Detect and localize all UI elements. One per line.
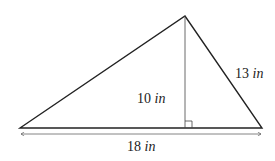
triangle-shape <box>20 16 262 128</box>
side-label: 13 in <box>235 66 263 81</box>
triangle-diagram: 10 in 13 in 18 in <box>0 0 275 161</box>
base-label: 18 in <box>127 139 155 154</box>
right-angle-marker <box>185 121 192 128</box>
height-label: 10 in <box>137 91 165 106</box>
